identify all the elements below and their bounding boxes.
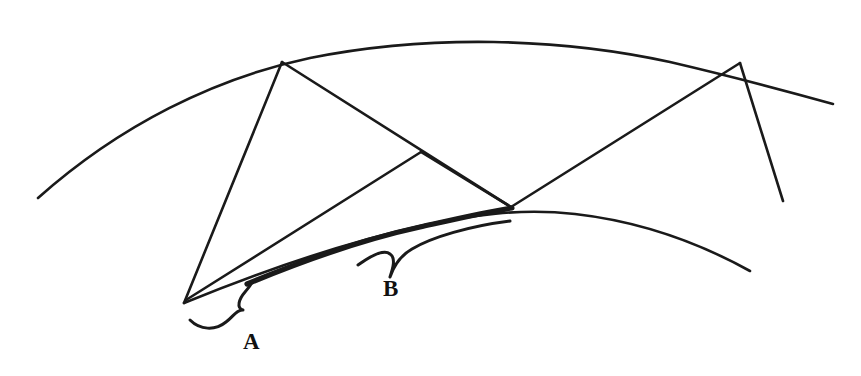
outer-arc: [38, 42, 833, 198]
label-a: A: [243, 329, 260, 354]
label-b: B: [383, 276, 398, 301]
thick-inner-arc-highlight: [247, 208, 512, 284]
inner-arc: [184, 212, 750, 303]
chord-left-up: [184, 62, 282, 303]
brace-b: [358, 221, 510, 277]
geometry-diagram: A B: [0, 0, 861, 376]
figure-canvas: A B: [0, 0, 861, 376]
chord-lower-vertex-to-top-right: [511, 63, 740, 207]
chord-mid-vertex-to-lower-vertex: [421, 152, 511, 207]
